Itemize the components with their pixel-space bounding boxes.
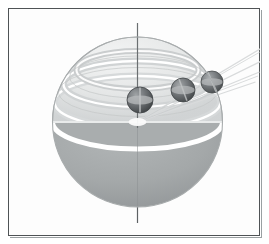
center-glow: [129, 118, 147, 126]
sphere-illustration: [8, 8, 260, 236]
figure-root: Sphere with polar axis, latitude rings a…: [0, 0, 269, 244]
marker-sphere-1: [127, 87, 153, 113]
marker-sphere-2: [171, 78, 195, 102]
